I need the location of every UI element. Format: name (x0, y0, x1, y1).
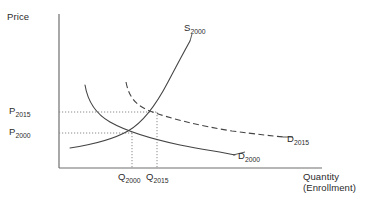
curve-label-demand-2015-sub: 2015 (294, 139, 309, 146)
curve-label-supply-2000: S2000 (184, 22, 206, 37)
curve-label-demand-2015: D2015 (287, 133, 309, 148)
supply-demand-figure: Price P2015 P2000 Q2000 Q2015 S2000 D200… (0, 0, 371, 211)
x-axis-title: Quantity (Enrollment) (303, 171, 356, 193)
x-tick-q2000-sub: 2000 (126, 177, 141, 184)
x-axis-title-line1: Quantity (303, 171, 339, 182)
curve-label-demand-2015-main: D (287, 133, 294, 144)
y-tick-label-p2015: P2015 (9, 105, 31, 120)
y-tick-p2000-sub: 2000 (15, 132, 30, 139)
curve-label-demand-2000-sub: 2000 (245, 156, 260, 163)
x-axis-title-line2: (Enrollment) (303, 182, 356, 193)
x-tick-q2015-main: Q (146, 171, 154, 182)
curve-label-demand-2000-main: D (238, 150, 245, 161)
curve-label-demand-2000: D2000 (238, 150, 260, 165)
x-tick-q2000-main: Q (118, 171, 126, 182)
x-tick-label-q2000: Q2000 (118, 171, 141, 186)
y-axis-title: Price (7, 11, 29, 22)
curve-label-supply-2000-sub: 2000 (190, 28, 205, 35)
y-tick-p2015-sub: 2015 (15, 111, 30, 118)
y-tick-label-p2000: P2000 (9, 126, 31, 141)
demand-2015-curve (126, 82, 284, 137)
x-tick-label-q2015: Q2015 (146, 171, 169, 186)
x-tick-q2015-sub: 2015 (154, 177, 169, 184)
